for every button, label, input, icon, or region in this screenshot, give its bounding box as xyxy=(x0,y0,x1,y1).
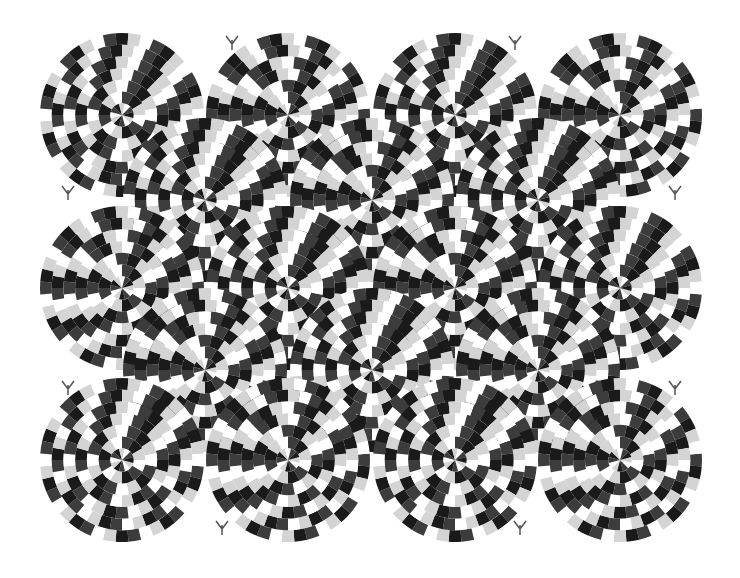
snake-head-icon xyxy=(226,36,238,50)
snake-circle xyxy=(40,378,204,542)
rotating-snakes-artwork xyxy=(0,0,740,578)
snake-head-icon xyxy=(509,36,521,50)
snake-head-icon xyxy=(62,381,74,395)
snake-head-icon xyxy=(514,521,526,535)
snake-head-icon xyxy=(216,521,228,535)
snake-head-icon xyxy=(62,186,74,200)
snake-circle xyxy=(206,378,370,542)
snake-circle xyxy=(373,378,537,542)
snake-circle xyxy=(538,378,702,542)
snake-head-icon xyxy=(669,381,681,395)
snake-head-icon xyxy=(669,186,681,200)
illusion-canvas: Rotating snakes optical illusion xyxy=(0,0,740,578)
